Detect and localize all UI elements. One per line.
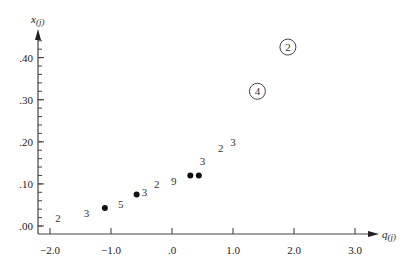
y-tick-label: .00 bbox=[19, 220, 33, 232]
data-point-count: 3 bbox=[230, 136, 236, 148]
y-tick-label: .30 bbox=[19, 94, 33, 106]
outlier-count: 2 bbox=[285, 41, 291, 53]
y-tick-label: .10 bbox=[19, 178, 33, 190]
data-point-dot bbox=[187, 172, 193, 178]
data-point-count: 2 bbox=[218, 142, 224, 154]
scatter-chart: x(j)q(j).00.10.20.30.40−2.0−1.0.01.02.03… bbox=[0, 0, 420, 268]
axes: x(j)q(j).00.10.20.30.40−2.0−1.0.01.02.03… bbox=[19, 13, 396, 256]
y-axis-label: x(j) bbox=[30, 13, 44, 27]
data-point-count: 2 bbox=[154, 178, 160, 190]
data-point-count: 3 bbox=[200, 155, 206, 167]
y-tick-label: .40 bbox=[19, 52, 33, 64]
y-tick-label: .20 bbox=[19, 136, 33, 148]
data-point-dot bbox=[134, 191, 140, 197]
x-axis-label: q(j) bbox=[382, 228, 396, 242]
data-point-count: 2 bbox=[55, 212, 61, 224]
data-point-dot bbox=[102, 205, 108, 211]
data-point-count: 3 bbox=[142, 186, 148, 198]
data-point-count: 3 bbox=[84, 207, 90, 219]
outlier-count: 4 bbox=[255, 85, 261, 97]
y-axis-arrow-icon bbox=[35, 29, 41, 40]
x-tick-label: 1.0 bbox=[226, 244, 240, 256]
x-axis-arrow-icon bbox=[368, 231, 379, 237]
x-tick-label: −2.0 bbox=[40, 244, 60, 256]
data-point-dot bbox=[196, 172, 202, 178]
data-points: 23532932342 bbox=[55, 39, 296, 224]
data-point-count: 5 bbox=[118, 198, 124, 210]
data-point-count: 9 bbox=[171, 175, 177, 187]
x-tick-label: −1.0 bbox=[101, 244, 121, 256]
x-tick-label: 2.0 bbox=[287, 244, 301, 256]
x-tick-label: 3.0 bbox=[348, 244, 362, 256]
x-tick-label: .0 bbox=[168, 244, 177, 256]
